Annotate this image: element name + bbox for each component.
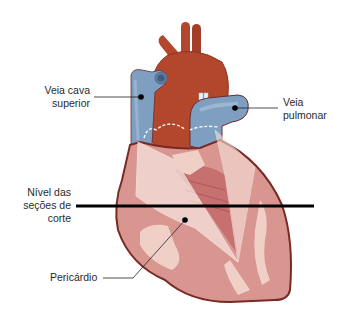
label-line: superior xyxy=(20,97,90,110)
label-line: Veia cava xyxy=(20,84,90,97)
marker-pericardio xyxy=(182,217,188,223)
label-line: corte xyxy=(0,212,71,225)
label-line: seções de xyxy=(0,199,71,212)
label-veia-cava-superior: Veia cava superior xyxy=(20,84,90,110)
label-pericardio: Pericárdio xyxy=(50,271,110,284)
label-veia-pulmonar: Veia pulmonar xyxy=(283,96,342,122)
marker-veia-pulmonar xyxy=(232,105,238,111)
label-nivel-secoes-corte: Nível das seções de corte xyxy=(0,186,71,225)
label-line: Veia xyxy=(283,96,342,109)
label-line: Nível das xyxy=(0,186,71,199)
label-line: Pericárdio xyxy=(50,271,110,284)
label-line: pulmonar xyxy=(283,109,342,122)
marker-veia-cava xyxy=(138,94,144,100)
heart-body xyxy=(116,130,291,302)
